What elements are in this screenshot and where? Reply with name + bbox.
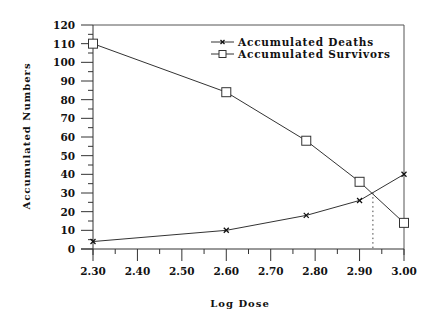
y-tick-label: 100: [53, 56, 75, 68]
y-tick-label: 30: [60, 187, 75, 199]
x-axis-label: Log Dose: [210, 298, 270, 309]
square-marker-icon: [219, 51, 226, 58]
x-tick-label: 2.30: [80, 265, 106, 277]
x-tick-label: 2.50: [169, 265, 195, 277]
y-tick-label: 70: [60, 112, 75, 124]
x-tick-label: 2.80: [302, 265, 328, 277]
data-series: [89, 39, 409, 249]
series-line: [93, 44, 404, 223]
legend-label: Accumulated Survivors: [237, 48, 391, 60]
square-marker-icon: [400, 218, 409, 227]
y-tick-label: 60: [60, 131, 75, 143]
x-axis-ticks: 2.302.402.502.602.702.802.903.00: [80, 249, 417, 277]
legend-label: Accumulated Deaths: [237, 36, 374, 48]
square-marker-icon: [355, 177, 364, 186]
y-tick-label: 90: [60, 75, 75, 87]
square-marker-icon: [89, 39, 98, 48]
legend-item-accumulated-survivors: Accumulated Survivors: [211, 48, 391, 60]
square-marker-icon: [222, 88, 231, 97]
legend-item-accumulated-deaths: Accumulated Deaths: [211, 36, 374, 48]
y-tick-label: 10: [60, 224, 75, 236]
legend: Accumulated DeathsAccumulated Survivors: [211, 36, 391, 60]
dose-response-chart: 0102030405060708090100110120 2.302.402.5…: [0, 0, 435, 326]
x-tick-label: 2.40: [125, 265, 151, 277]
x-tick-label: 2.60: [213, 265, 239, 277]
y-axis-ticks: 0102030405060708090100110120: [53, 19, 93, 255]
y-tick-label: 120: [53, 19, 75, 31]
y-tick-label: 40: [60, 168, 75, 180]
y-tick-label: 110: [53, 38, 75, 50]
y-tick-label: 20: [60, 206, 75, 218]
square-marker-icon: [302, 136, 311, 145]
y-tick-label: 0: [68, 243, 75, 255]
y-tick-label: 80: [60, 94, 75, 106]
x-tick-label: 2.90: [347, 265, 373, 277]
y-tick-label: 50: [60, 150, 75, 162]
x-tick-label: 3.00: [391, 265, 417, 277]
x-tick-label: 2.70: [258, 265, 284, 277]
y-axis-label: Accumulated Numbers: [21, 62, 32, 210]
